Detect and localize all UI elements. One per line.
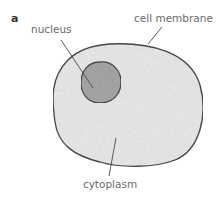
cell-diagram: a nucleus cell membrane cytoplasm [0,0,219,197]
cytoplasm-label: cytoplasm [83,178,137,190]
nucleus-shape [81,62,121,103]
panel-label: a [11,12,18,25]
nucleus-label: nucleus [31,23,72,35]
cell-membrane-leader-line [148,27,162,44]
cell-membrane-label: cell membrane [134,12,213,24]
